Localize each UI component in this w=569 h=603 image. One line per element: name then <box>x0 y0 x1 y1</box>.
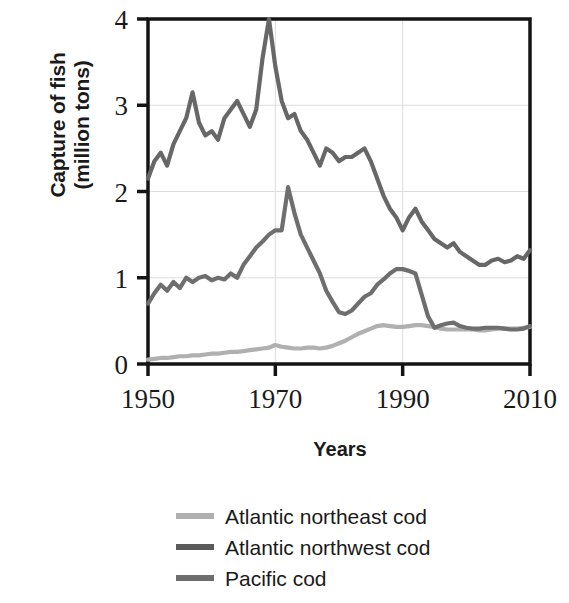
x-tick-label: 1970 <box>248 384 302 414</box>
y-tick-labels: 01234 <box>115 5 129 380</box>
legend-item-atlantic-northeast-cod: Atlantic northeast cod <box>176 503 430 529</box>
chart-legend: Atlantic northeast cod Atlantic northwes… <box>176 503 430 591</box>
y-tick-label: 1 <box>115 264 129 294</box>
legend-swatch-icon <box>176 575 214 581</box>
data-series <box>148 19 530 360</box>
axis-ticks <box>137 19 530 376</box>
legend-label: Pacific cod <box>225 568 327 589</box>
x-tick-label: 1990 <box>376 384 430 414</box>
legend-swatch-icon <box>176 513 214 519</box>
legend-label: Atlantic northwest cod <box>225 537 430 558</box>
chart-figure: Capture of fish (million tons) 01234 195… <box>0 0 569 603</box>
y-tick-label: 2 <box>115 178 129 208</box>
legend-item-pacific-cod: Pacific cod <box>176 565 430 591</box>
line-chart-plot: 01234 1950197019902010 <box>0 0 569 430</box>
y-tick-label: 0 <box>115 350 129 380</box>
x-tick-label: 2010 <box>503 384 557 414</box>
y-tick-label: 3 <box>115 91 129 121</box>
y-tick-label: 4 <box>115 5 129 35</box>
x-tick-label: 1950 <box>121 384 175 414</box>
legend-swatch-icon <box>176 544 214 550</box>
legend-label: Atlantic northeast cod <box>225 506 427 527</box>
x-tick-labels: 1950197019902010 <box>121 384 557 414</box>
legend-item-atlantic-northwest-cod: Atlantic northwest cod <box>176 534 430 560</box>
x-axis-title: Years <box>145 438 535 461</box>
